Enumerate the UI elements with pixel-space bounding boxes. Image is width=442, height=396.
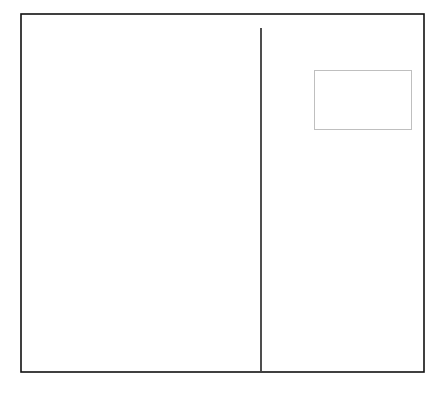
plot-frame [21,14,424,372]
diffraction-plot [0,0,442,396]
legend-box [314,70,412,130]
raleigh-criterion-figure [0,0,442,396]
